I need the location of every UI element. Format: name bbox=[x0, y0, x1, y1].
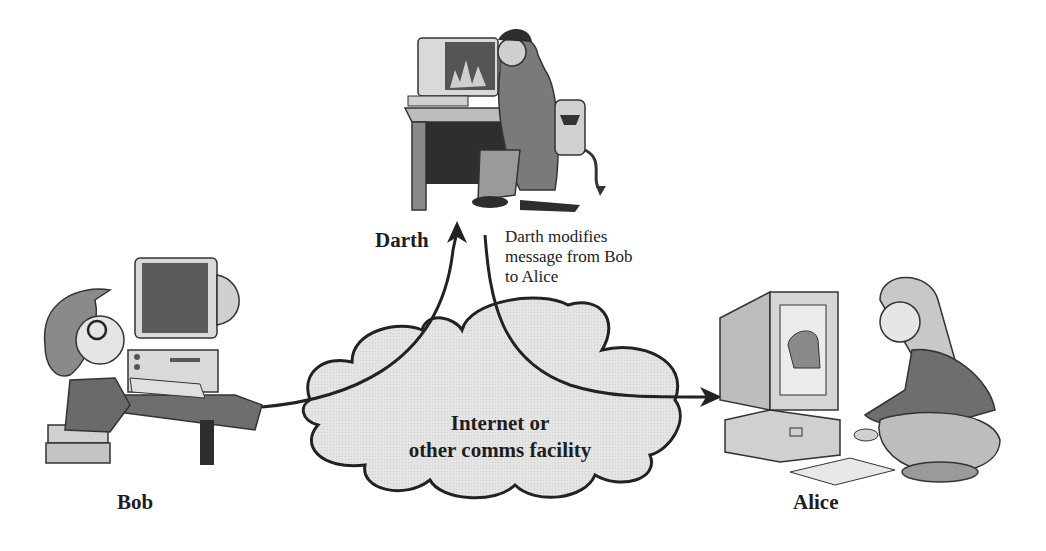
note-line-3: to Alice bbox=[505, 267, 632, 287]
network-label-line-2: other comms facility bbox=[380, 437, 620, 464]
bob-illustration bbox=[45, 258, 262, 465]
darth-illustration bbox=[405, 29, 606, 212]
network-label-line-1: Internet or bbox=[380, 410, 620, 437]
modification-note: Darth modifies message from Bob to Alice bbox=[505, 227, 632, 287]
alice-illustration bbox=[720, 278, 1000, 486]
note-line-1: Darth modifies bbox=[505, 227, 632, 247]
network-cloud bbox=[303, 298, 680, 498]
network-label: Internet or other comms facility bbox=[380, 410, 620, 464]
darth-label: Darth bbox=[375, 228, 429, 253]
note-line-2: message from Bob bbox=[505, 247, 632, 267]
bob-label: Bob bbox=[117, 490, 153, 515]
arrowhead-up-icon bbox=[447, 221, 467, 243]
alice-label: Alice bbox=[793, 490, 838, 515]
